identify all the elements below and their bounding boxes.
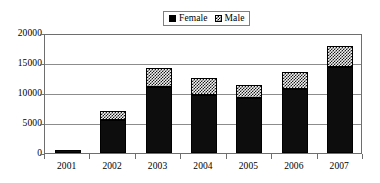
x-tick-label: 2005 xyxy=(226,162,271,172)
legend-swatch-male-icon xyxy=(215,15,222,22)
bar-segment-male[interactable] xyxy=(191,78,217,95)
bar-segment-female[interactable] xyxy=(282,89,308,153)
stacked-bar-chart: Female Male 05000100001500020000 2001200… xyxy=(0,0,380,183)
x-tick-mark xyxy=(362,154,363,159)
bar-segment-female[interactable] xyxy=(191,95,217,153)
x-tick-label: 2003 xyxy=(135,162,180,172)
bar-group[interactable] xyxy=(146,33,172,153)
bar-group[interactable] xyxy=(55,33,81,153)
x-tick-mark xyxy=(271,154,272,159)
bar-segment-female[interactable] xyxy=(146,87,172,153)
bar-group[interactable] xyxy=(100,33,126,153)
chart-legend: Female Male xyxy=(163,11,250,26)
bar-group[interactable] xyxy=(236,33,262,153)
x-tick-mark xyxy=(89,154,90,159)
bar-group[interactable] xyxy=(282,33,308,153)
bar-segment-male[interactable] xyxy=(100,111,126,120)
bar-segment-female[interactable] xyxy=(236,98,262,153)
legend-entry-female: Female xyxy=(169,14,208,24)
plot-area xyxy=(44,34,362,154)
y-tick-mark xyxy=(40,94,44,95)
y-tick-label: 10000 xyxy=(18,89,42,99)
legend-entry-male: Male xyxy=(215,14,245,24)
x-tick-label: 2004 xyxy=(180,162,225,172)
bar-segment-female[interactable] xyxy=(55,150,81,153)
y-tick-mark xyxy=(40,34,44,35)
bar-segment-male[interactable] xyxy=(282,72,308,89)
legend-swatch-female-icon xyxy=(169,15,176,22)
legend-label-male: Male xyxy=(225,14,245,24)
x-tick-label: 2001 xyxy=(44,162,89,172)
bar-segment-male[interactable] xyxy=(236,85,262,98)
y-tick-mark xyxy=(40,64,44,65)
bar-segment-female[interactable] xyxy=(100,120,126,153)
y-tick-label: 20000 xyxy=(18,29,42,39)
x-tick-label: 2007 xyxy=(317,162,362,172)
x-tick-label: 2006 xyxy=(271,162,316,172)
x-tick-mark xyxy=(226,154,227,159)
bar-group[interactable] xyxy=(327,33,353,153)
x-tick-mark xyxy=(180,154,181,159)
bar-segment-female[interactable] xyxy=(327,67,353,153)
bar-group[interactable] xyxy=(191,33,217,153)
x-tick-mark xyxy=(317,154,318,159)
x-tick-mark xyxy=(44,154,45,159)
y-tick-label: 15000 xyxy=(18,59,42,69)
bar-segment-male[interactable] xyxy=(327,46,353,67)
legend-label-female: Female xyxy=(179,14,208,24)
y-tick-mark xyxy=(40,124,44,125)
x-tick-label: 2002 xyxy=(89,162,134,172)
x-tick-mark xyxy=(135,154,136,159)
bar-segment-male[interactable] xyxy=(146,68,172,87)
